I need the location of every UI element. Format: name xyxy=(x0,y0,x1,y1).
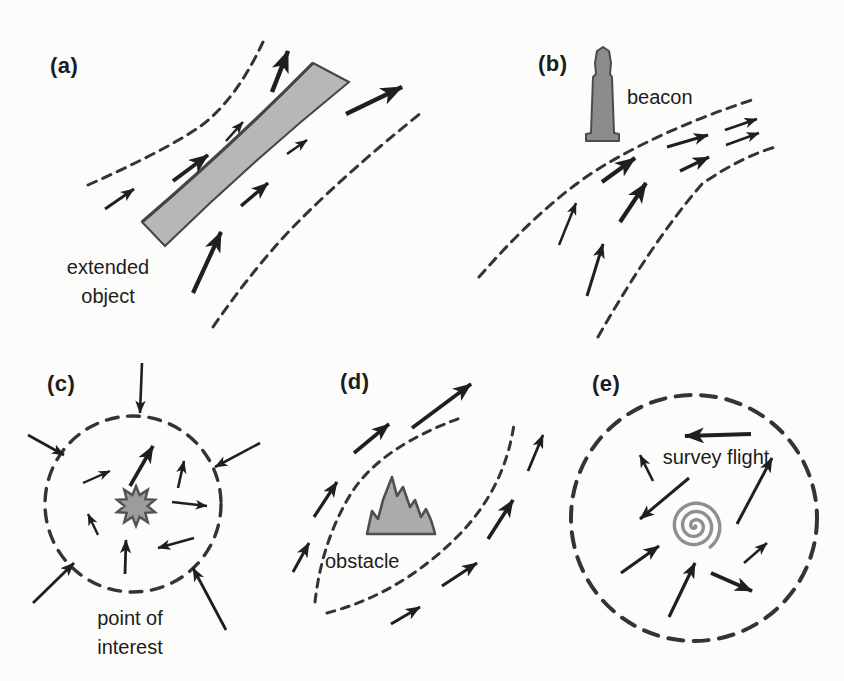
velocity-arrow-c xyxy=(140,363,142,413)
panel-b-label: (b) xyxy=(538,51,568,77)
velocity-arrow-e xyxy=(685,434,751,436)
velocity-arrow-e xyxy=(621,546,659,573)
flight-path-dashed-b xyxy=(479,100,752,277)
velocity-arrow-c xyxy=(88,514,98,535)
panel-c-label: (c) xyxy=(47,371,75,397)
velocity-arrow-b xyxy=(620,183,646,222)
caption-point-of-interest: point of interest xyxy=(70,604,190,662)
velocity-arrow-b xyxy=(602,158,635,182)
velocity-arrow-a xyxy=(105,189,134,209)
velocity-arrow-a xyxy=(287,140,307,154)
survey-spiral-icon xyxy=(674,503,719,547)
velocity-arrow-d xyxy=(293,543,309,572)
velocity-arrow-c xyxy=(178,461,184,488)
velocity-arrow-c xyxy=(193,568,226,630)
velocity-arrow-a xyxy=(346,87,402,114)
panel-c xyxy=(28,363,260,630)
velocity-arrow-a xyxy=(272,51,288,92)
velocity-arrow-d xyxy=(391,607,420,624)
velocity-arrow-d xyxy=(314,482,337,517)
velocity-arrow-b xyxy=(680,157,709,171)
obstacle-mountain-icon xyxy=(367,477,435,534)
panel-d-label: (d) xyxy=(340,369,370,395)
velocity-arrow-a xyxy=(241,183,268,206)
caption-survey-flight: survey flight xyxy=(656,443,776,472)
velocity-arrow-e xyxy=(744,543,767,563)
velocity-arrow-c xyxy=(125,540,126,574)
velocity-arrow-d xyxy=(442,563,477,586)
velocity-arrow-b xyxy=(559,203,576,245)
caption-beacon: beacon xyxy=(627,83,693,112)
caption-extended-object: extended object xyxy=(48,253,168,311)
beacon-tower-icon xyxy=(586,47,619,141)
panel-e-label: (e) xyxy=(592,371,620,397)
velocity-arrow-d xyxy=(488,500,513,539)
extended-object-shape xyxy=(142,63,349,246)
extended-object-edge xyxy=(142,63,313,222)
velocity-arrow-e xyxy=(711,573,752,591)
flight-path-dashed-b xyxy=(598,146,779,337)
point-of-interest-star-icon xyxy=(117,486,155,526)
velocity-arrow-b xyxy=(725,119,757,130)
panel-d xyxy=(293,384,543,624)
velocity-arrow-d xyxy=(354,424,389,453)
velocity-arrow-b xyxy=(726,133,759,145)
velocity-arrow-c xyxy=(130,446,153,486)
velocity-arrow-c xyxy=(158,538,194,548)
velocity-arrow-c xyxy=(215,443,260,467)
figure-flight-patterns: (a) (b) (c) (d) (e) extended object beac… xyxy=(0,0,844,681)
velocity-arrow-e xyxy=(640,478,689,519)
velocity-arrow-b xyxy=(667,135,708,147)
velocity-arrow-e xyxy=(640,455,653,481)
velocity-arrow-c xyxy=(172,502,207,506)
dashed-boundary-circle-e xyxy=(571,395,817,641)
velocity-arrow-b xyxy=(587,244,603,296)
panel-a-label: (a) xyxy=(50,53,78,79)
velocity-arrow-a xyxy=(193,232,221,293)
velocity-arrow-c xyxy=(33,563,74,603)
panel-e xyxy=(571,395,817,641)
velocity-arrow-c xyxy=(28,435,64,455)
velocity-arrow-d xyxy=(528,435,543,471)
velocity-arrow-e xyxy=(669,563,695,617)
diagram-canvas xyxy=(0,0,844,681)
velocity-arrow-c xyxy=(83,471,110,483)
caption-obstacle: obstacle xyxy=(325,547,400,576)
velocity-arrow-d xyxy=(412,384,471,428)
